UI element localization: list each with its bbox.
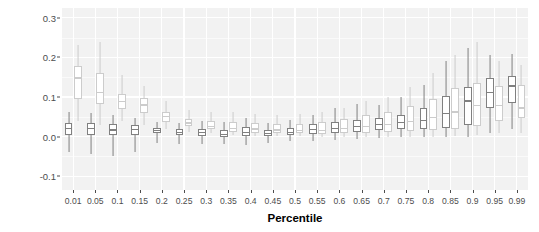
boxplot — [185, 8, 193, 190]
boxplot-whisker-upper — [135, 118, 136, 125]
boxplot-whisker-upper — [423, 85, 424, 108]
boxplot-median-line — [296, 130, 304, 131]
x-axis-tick-label: 0.85 — [442, 196, 459, 206]
boxplot-box — [420, 108, 428, 129]
boxplot-median-line — [162, 116, 170, 117]
boxplot-median-line — [153, 130, 161, 131]
x-axis-tick-mark — [117, 190, 118, 193]
boxplot — [109, 8, 117, 190]
boxplot-box — [340, 119, 348, 133]
boxplot-whisker-lower — [201, 136, 202, 144]
boxplot-whisker-upper — [357, 104, 358, 120]
boxplot-whisker-upper — [477, 42, 478, 84]
boxplot-median-line — [362, 126, 370, 127]
boxplot — [318, 8, 326, 190]
boxplot-median-line — [518, 107, 526, 108]
boxplot-whisker-upper — [388, 97, 389, 112]
boxplot-whisker-upper — [157, 122, 158, 129]
boxplot-figure: Pseudo R-Square -0.10.00.10.20.3 Percent… — [0, 0, 539, 232]
boxplot — [153, 8, 161, 190]
boxplot — [273, 8, 281, 190]
x-axis-tick-mark — [140, 190, 141, 193]
boxplot-median-line — [198, 132, 206, 133]
boxplot-whisker-lower — [233, 132, 234, 135]
boxplot-whisker-upper — [521, 65, 522, 85]
boxplot — [251, 8, 259, 190]
boxplot — [296, 8, 304, 190]
boxplot-median-line — [96, 92, 104, 93]
boxplot-box — [384, 112, 392, 132]
boxplot — [162, 8, 170, 190]
boxplot-whisker-upper — [334, 108, 335, 121]
y-axis-tick-labels: -0.10.00.10.20.3 — [20, 0, 56, 232]
boxplot-whisker-lower — [299, 133, 300, 136]
boxplot-median-line — [451, 111, 459, 112]
y-axis-tick-mark — [57, 57, 60, 58]
boxplot — [74, 8, 82, 190]
x-axis-title: Percentile — [62, 212, 528, 224]
boxplot-whisker-lower — [290, 135, 291, 141]
boxplot-whisker-lower — [277, 133, 278, 136]
boxplot-box — [96, 73, 104, 104]
boxplot-median-line — [375, 124, 383, 125]
boxplot-whisker-lower — [410, 131, 411, 137]
boxplot-whisker-lower — [499, 121, 500, 134]
boxplot — [375, 8, 383, 190]
boxplot — [176, 8, 184, 190]
y-axis-tick-label: 0.2 — [22, 52, 56, 63]
x-axis-tick-mark — [428, 190, 429, 193]
boxplot-whisker-lower — [157, 133, 158, 142]
boxplot-whisker-lower — [357, 132, 358, 139]
boxplot-median-line — [273, 129, 281, 130]
boxplot-whisker-upper — [299, 114, 300, 123]
y-axis-tick-label: 0.1 — [22, 92, 56, 103]
boxplot-whisker-upper — [99, 42, 100, 73]
boxplot-whisker-lower — [179, 135, 180, 144]
boxplot-whisker-lower — [312, 134, 313, 140]
boxplot-whisker-lower — [512, 103, 513, 129]
boxplot-whisker-upper — [499, 61, 500, 86]
boxplot-median-line — [331, 128, 339, 129]
boxplot-median-line — [220, 134, 228, 135]
boxplot — [331, 8, 339, 190]
x-axis-tick-mark — [495, 190, 496, 193]
y-axis-tick-mark — [57, 176, 60, 177]
x-axis-tick-label: 0.6 — [333, 196, 345, 206]
boxplot-whisker-lower — [490, 108, 491, 133]
y-axis-tick-label: 0.3 — [22, 12, 56, 23]
boxplot-median-line — [185, 122, 193, 123]
boxplot-median-line — [87, 128, 95, 129]
boxplot-median-line — [109, 129, 117, 130]
boxplot-whisker-lower — [99, 104, 100, 125]
boxplot-whisker-lower — [68, 135, 69, 153]
x-axis-tick-label: 0.15 — [131, 196, 148, 206]
boxplot-whisker-lower — [477, 126, 478, 135]
boxplot — [242, 8, 250, 190]
x-axis-tick-label: 0.65 — [353, 196, 370, 206]
boxplot-whisker-upper — [432, 73, 433, 99]
boxplot-median-line — [242, 132, 250, 133]
boxplot-whisker-lower — [166, 122, 167, 129]
x-axis-tick-mark — [251, 190, 252, 193]
x-axis-tick-label: 0.45 — [264, 196, 281, 206]
boxplot-whisker-lower — [454, 129, 455, 136]
boxplot-whisker-upper — [233, 112, 234, 122]
boxplot-box — [508, 76, 516, 103]
boxplot-whisker-lower — [445, 128, 446, 137]
x-axis-tick-label: 0.05 — [87, 196, 104, 206]
x-axis-tick-mark — [450, 190, 451, 193]
boxplot-box — [486, 78, 494, 108]
boxplot-whisker-upper — [401, 97, 402, 115]
boxplot-whisker-upper — [77, 45, 78, 66]
boxplot-whisker-lower — [112, 135, 113, 155]
boxplot-whisker-upper — [343, 108, 344, 119]
boxplot-median-line — [442, 113, 450, 114]
boxplot-whisker-lower — [334, 133, 335, 139]
boxplot-whisker-upper — [445, 61, 446, 96]
boxplot-median-line — [340, 128, 348, 129]
boxplot-whisker-upper — [246, 118, 247, 127]
x-axis-tick-label: 0.4 — [245, 196, 257, 206]
boxplot-whisker-upper — [122, 75, 123, 94]
x-axis-tick-mark — [95, 190, 96, 193]
boxplot-median-line — [287, 132, 295, 133]
